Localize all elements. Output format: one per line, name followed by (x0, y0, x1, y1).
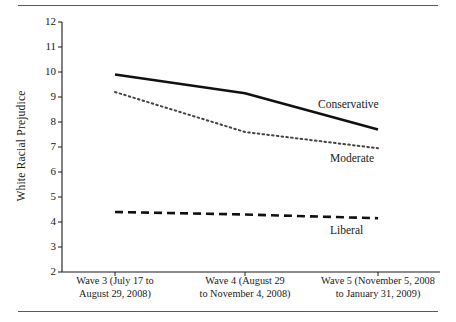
x-tick-label-line1: Wave 3 (July 17 to (76, 275, 154, 286)
x-tick-label: Wave 3 (July 17 toAugust 29, 2008) (47, 275, 183, 300)
series-label-liberal: Liberal (330, 224, 363, 236)
axis-lines (62, 22, 440, 272)
x-tick-label-line2: to November 4, 2008) (177, 288, 313, 301)
x-tick-label-line1: Wave 5 (November 5, 2008 (321, 275, 435, 286)
series-label-moderate: Moderate (330, 152, 374, 164)
series-line-liberal (115, 212, 378, 218)
series-label-conservative: Conservative (318, 98, 379, 110)
chart-canvas (0, 0, 456, 322)
figure-panel: White Racial Prejudice 12111098765432 Wa… (0, 0, 456, 322)
series-lines (115, 75, 378, 219)
x-tick-label-line1: Wave 4 (August 29 (205, 275, 285, 286)
x-tick-label-line2: to January 31, 2009) (310, 288, 446, 301)
x-tick-label: Wave 5 (November 5, 2008to January 31, 2… (310, 275, 446, 300)
x-tick-label-line2: August 29, 2008) (47, 288, 183, 301)
x-tick-label: Wave 4 (August 29to November 4, 2008) (177, 275, 313, 300)
y-tick-marks (58, 22, 62, 272)
